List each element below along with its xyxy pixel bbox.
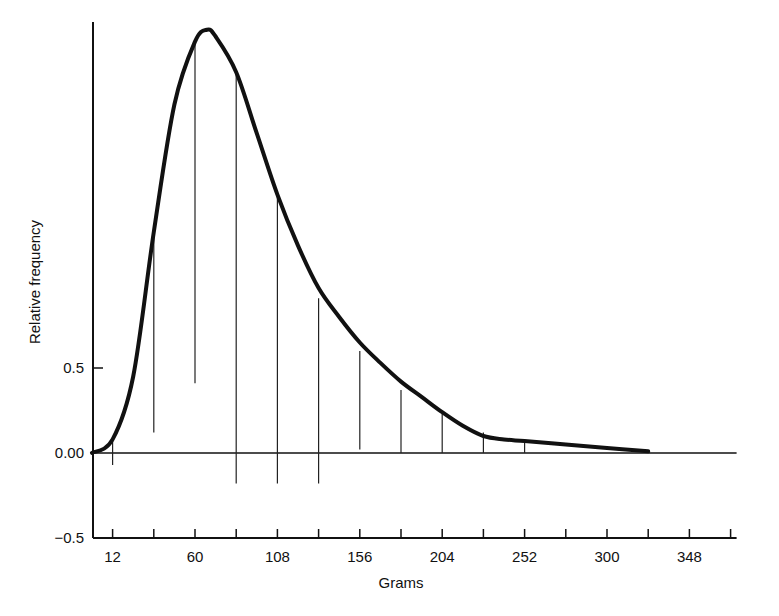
axes: [93, 22, 737, 538]
x-tick-label: 204: [430, 548, 455, 565]
tick-labels: 1260108156204252300348−0.50.000.5: [54, 359, 702, 565]
x-tick-label: 12: [104, 548, 121, 565]
density-curve: [92, 29, 648, 453]
x-tick-label: 108: [265, 548, 290, 565]
x-tick-label: 60: [187, 548, 204, 565]
x-tick-label: 156: [347, 548, 372, 565]
x-tick-label: 300: [594, 548, 619, 565]
y-tick-label: 0.5: [63, 359, 84, 376]
y-tick-label: 0.00: [55, 444, 84, 461]
x-tick-label: 348: [677, 548, 702, 565]
x-axis-title: Grams: [379, 574, 424, 591]
relative-frequency-chart: 1260108156204252300348−0.50.000.5 Grams …: [0, 0, 779, 616]
x-tick-label: 252: [512, 548, 537, 565]
y-tick-label: −0.5: [54, 529, 84, 546]
y-axis-title: Relative frequency: [26, 219, 43, 344]
